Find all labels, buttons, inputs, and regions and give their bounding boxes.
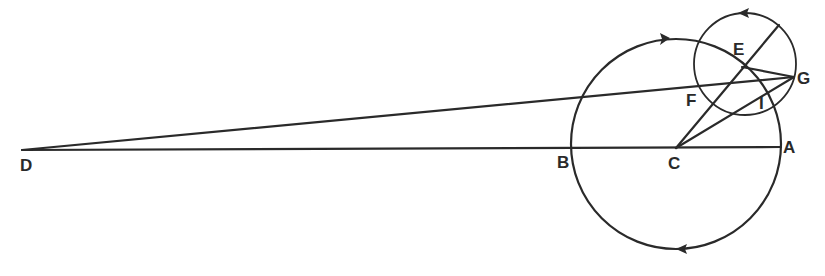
label-G: G: [797, 70, 810, 87]
geometry-svg: [0, 0, 825, 276]
diagram-canvas: D B C A E F G I: [0, 0, 825, 276]
line-EG: [742, 67, 794, 77]
label-A: A: [783, 139, 795, 156]
label-I: I: [759, 95, 764, 112]
line-DG: [22, 77, 794, 150]
label-D: D: [20, 157, 32, 174]
line-DA: [22, 147, 781, 150]
deferent-circle: [571, 39, 781, 249]
label-F: F: [686, 92, 696, 109]
label-C: C: [668, 155, 680, 172]
label-B: B: [557, 154, 569, 171]
label-E: E: [733, 41, 744, 58]
